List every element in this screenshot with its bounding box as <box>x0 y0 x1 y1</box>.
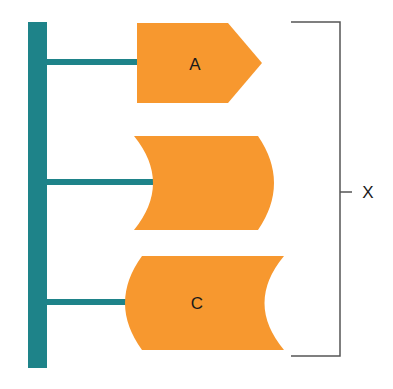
diagram-canvas: A C X <box>0 0 393 389</box>
connector-c <box>47 299 127 305</box>
shape-a-label: A <box>189 55 201 74</box>
shape-c: C <box>125 256 284 350</box>
bracket-x: X <box>291 22 374 356</box>
connector-a <box>47 59 139 65</box>
bracket-label: X <box>362 183 373 202</box>
shape-a: A <box>137 23 262 103</box>
shape-b <box>134 136 274 230</box>
shape-c-label: C <box>191 294 203 313</box>
vertical-trunk-bar <box>28 22 47 368</box>
connector-b <box>47 179 159 185</box>
